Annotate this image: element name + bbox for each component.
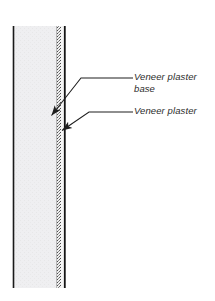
wall-section-drawing xyxy=(0,0,215,301)
callout-label-veneer-plaster: Veneer plaster xyxy=(134,105,197,117)
veneer-plaster-base-band xyxy=(57,26,61,288)
veneer-plaster-finish-coat xyxy=(61,26,64,288)
leader-veneer-plaster xyxy=(62,112,133,131)
callout-label-veneer-plaster-base: Veneer plaster base xyxy=(134,71,197,94)
substrate-field xyxy=(14,26,57,288)
wall-section-figure: Veneer plaster base Veneer plaster xyxy=(0,0,215,301)
